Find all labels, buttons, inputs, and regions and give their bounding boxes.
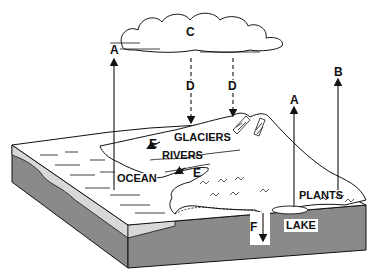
label-arrow-c-condensation: C (186, 26, 195, 38)
label-rivers: RIVERS (162, 150, 203, 161)
label-arrow-e-upper: E (149, 138, 157, 150)
lake-water (272, 206, 308, 214)
label-ocean: OCEAN (117, 173, 157, 184)
cloud (110, 13, 283, 52)
label-arrow-a-ocean: A (110, 44, 119, 56)
label-arrow-e-lower: E (193, 167, 201, 179)
label-lake: LAKE (284, 219, 318, 232)
label-plants: PLANTS (299, 190, 343, 201)
label-arrow-a-lake: A (290, 94, 299, 106)
label-arrow-b: B (334, 66, 343, 78)
label-arrow-d-left: D (186, 80, 195, 92)
label-glaciers: GLACIERS (174, 132, 231, 143)
label-arrow-d-right: D (228, 80, 237, 92)
label-arrow-f: F (250, 221, 257, 233)
water-cycle-diagram: A C D D A B GLACIERS E RIVERS E OCEAN PL… (0, 0, 380, 278)
